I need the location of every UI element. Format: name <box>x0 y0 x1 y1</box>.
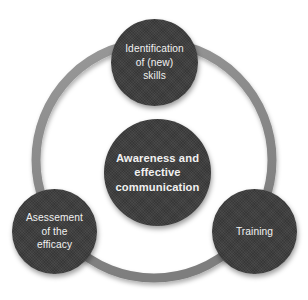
awareness-node[interactable]: Awareness and effective communication <box>104 119 211 226</box>
assessment-node-label: Asessement of the efficacy <box>26 211 83 251</box>
diagram-canvas: Identification of (new) skills Asessemen… <box>0 0 308 300</box>
identification-node[interactable]: Identification of (new) skills <box>111 19 198 106</box>
training-node[interactable]: Training <box>212 189 297 274</box>
training-node-label: Training <box>236 225 273 238</box>
assessment-node[interactable]: Asessement of the efficacy <box>12 189 97 274</box>
identification-node-label: Identification of (new) skills <box>125 42 184 82</box>
awareness-node-label: Awareness and effective communication <box>116 151 200 195</box>
